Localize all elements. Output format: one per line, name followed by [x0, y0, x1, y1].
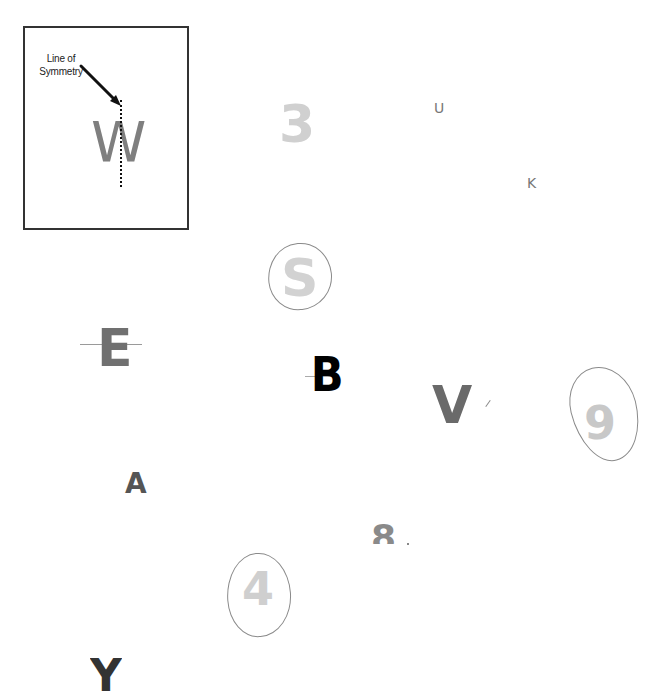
- glyph-9[interactable]: 9: [584, 400, 616, 446]
- glyph-8-partial[interactable]: 8: [371, 520, 396, 544]
- glyph-u[interactable]: U: [434, 101, 444, 115]
- stray-dot: [407, 543, 409, 545]
- example-box: Line of Symmetry W: [23, 26, 189, 230]
- glyph-k[interactable]: K: [527, 176, 536, 190]
- stray-mark-v: [485, 400, 490, 407]
- glyph-b[interactable]: B: [311, 350, 344, 398]
- glyph-a[interactable]: A: [125, 470, 147, 498]
- glyph-3[interactable]: 3: [279, 98, 315, 150]
- glyph-s[interactable]: S: [281, 252, 318, 304]
- glyph-e[interactable]: E: [97, 322, 133, 374]
- glyph-v[interactable]: V: [432, 379, 472, 431]
- symmetry-line: [120, 100, 122, 187]
- example-letter-w: W: [91, 114, 146, 170]
- glyph-4[interactable]: 4: [242, 566, 274, 612]
- glyph-y-partial[interactable]: Y: [90, 654, 122, 691]
